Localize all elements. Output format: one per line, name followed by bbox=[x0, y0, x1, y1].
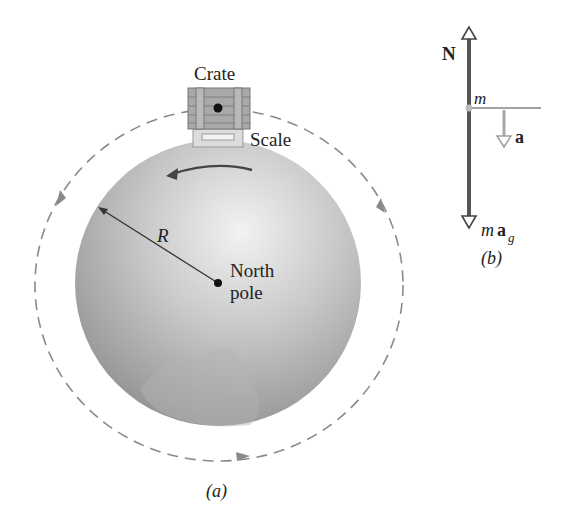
mass-point bbox=[466, 105, 473, 112]
radius-label: R bbox=[156, 225, 169, 246]
diagram-canvas: Crate Scale R North pole (a) N m a m a g… bbox=[0, 0, 580, 519]
gravity-label-m: m bbox=[481, 220, 494, 240]
orbit-arrow-left-icon bbox=[56, 190, 66, 206]
crate bbox=[188, 88, 250, 129]
scale-display bbox=[202, 134, 234, 140]
north-pole-label-line2: pole bbox=[230, 282, 263, 303]
mass-label: m bbox=[474, 89, 486, 108]
north-pole-dot bbox=[214, 279, 222, 287]
acceleration-label: a bbox=[515, 127, 524, 147]
figure-a: Crate Scale R North pole (a) bbox=[35, 63, 403, 502]
normal-force-label: N bbox=[442, 43, 456, 64]
gravity-label-sub: g bbox=[508, 230, 515, 245]
figure-b: N m a m a g (b) bbox=[442, 27, 541, 269]
caption-a: (a) bbox=[206, 481, 227, 502]
north-pole-label-line1: North bbox=[230, 260, 275, 281]
caption-b: (b) bbox=[481, 248, 502, 269]
scale-label: Scale bbox=[250, 129, 291, 150]
gravity-force-arrowhead-icon bbox=[462, 216, 476, 228]
acceleration-arrowhead-icon bbox=[497, 136, 511, 147]
crate-label: Crate bbox=[194, 63, 235, 84]
crate-center-dot bbox=[214, 104, 223, 113]
normal-force-arrowhead-icon bbox=[462, 27, 476, 39]
gravity-label-a: a bbox=[497, 220, 506, 240]
